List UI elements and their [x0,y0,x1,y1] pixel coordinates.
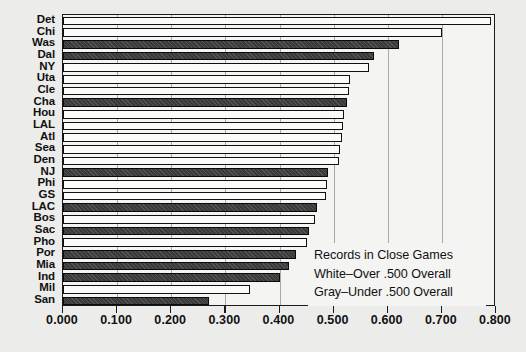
bar-san [63,297,209,306]
y-label-den: Den [34,154,55,166]
bar-row [63,227,494,236]
bar-row [63,157,494,166]
x-tick [170,306,171,313]
bar-atl [63,133,342,142]
bar-ind [63,273,280,282]
bar-pho [63,238,307,247]
bar-por [63,250,296,259]
x-tick-label: 0.600 [371,313,403,327]
x-tick-label: 0.400 [263,313,295,327]
x-tick [387,306,388,313]
bar-mia [63,262,289,271]
bar-sac [63,227,309,236]
bar-bos [63,215,315,224]
bar-dal [63,52,374,61]
bar-row [63,87,494,96]
x-tick [224,306,225,313]
bar-row [63,133,494,142]
bar-hou [63,110,344,119]
bar-row [63,40,494,49]
bar-uta [63,75,350,84]
bar-row [63,52,494,61]
bar-row [63,192,494,201]
bar-row [63,75,494,84]
bar-sea [63,145,340,154]
x-tick-label: 0.500 [317,313,349,327]
bar-phi [63,180,327,189]
y-label-det: Det [37,14,55,26]
x-tick-label: 0.000 [46,313,78,327]
legend-line-title: Records in Close Games [314,246,482,265]
x-tick-label: 0.800 [479,313,511,327]
x-tick-label: 0.100 [100,313,132,327]
y-label-san: San [34,294,55,306]
bar-row [63,17,494,26]
y-label-lal: LAL [33,119,55,131]
x-tick [279,306,280,313]
legend-line-white: White–Over .500 Overall [314,265,482,284]
y-label-sac: Sac [35,224,55,236]
bar-row [63,203,494,212]
chart-legend: Records in Close Games White–Over .500 O… [308,243,486,306]
x-tick [62,306,63,313]
x-tick [495,306,496,313]
legend-line-gray: Gray–Under .500 Overall [314,283,482,302]
y-label-cle: Cle [37,84,55,96]
bar-cle [63,87,349,96]
y-label-dal: Dal [37,49,55,61]
bar-row [63,122,494,131]
x-axis-tick-labels: 0.0000.1000.2000.3000.4000.5000.6000.700… [0,313,526,333]
bar-chi [63,28,442,37]
x-tick [441,306,442,313]
y-label-was: Was [32,37,55,49]
bar-chart: DetChiWasDalNYUtaCleChaHouLALAtlSeaDenNJ… [0,0,526,352]
bar-row [63,215,494,224]
bar-den [63,157,339,166]
x-tick [333,306,334,313]
x-tick-label: 0.200 [154,313,186,327]
bar-row [63,180,494,189]
y-label-uta: Uta [37,72,55,84]
bar-gs [63,192,326,201]
bar-ny [63,63,369,72]
bar-row [63,110,494,119]
y-label-gs: GS [39,189,55,201]
bar-det [63,17,491,26]
bar-row [63,28,494,37]
x-tick [116,306,117,313]
x-tick-label: 0.700 [425,313,457,327]
bar-row [63,168,494,177]
bar-lal [63,122,343,131]
y-axis-labels: DetChiWasDalNYUtaCleChaHouLALAtlSeaDenNJ… [0,14,58,306]
bar-row [63,98,494,107]
bar-was [63,40,399,49]
bar-row [63,145,494,154]
bar-lac [63,203,317,212]
x-tick-label: 0.300 [208,313,240,327]
bar-mil [63,285,250,294]
y-label-mia: Mia [36,259,55,271]
bar-nj [63,168,328,177]
bar-cha [63,98,347,107]
bar-row [63,63,494,72]
